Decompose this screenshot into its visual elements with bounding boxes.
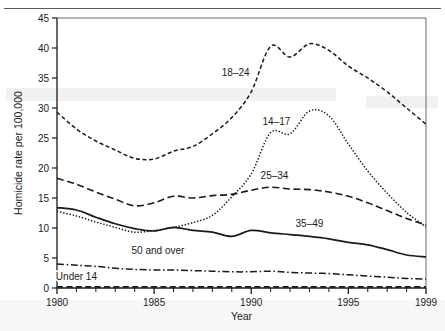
series-line-14-17 [57, 110, 426, 233]
series-label-14-17: 14–17 [263, 116, 291, 127]
y-axis-tick-label: 10 [38, 223, 50, 234]
series-line-35-49 [57, 208, 426, 257]
series-line-25-34 [57, 178, 426, 225]
y-axis-tick-label: 5 [43, 253, 49, 264]
y-axis-tick-label: 40 [38, 43, 50, 54]
x-axis-ticks-group: 19801985199019951999 [46, 288, 438, 308]
figure-chart-homicide-rate-by-age: 051015202530354045 19801985199019951999 … [0, 0, 445, 331]
data-series-group [57, 44, 426, 287]
x-axis-tick-label: 1995 [337, 297, 360, 308]
axes-frame-group [57, 18, 426, 288]
series-label-50-and-over: 50 and over [132, 245, 185, 256]
series-label-under-14: Under 14 [56, 271, 98, 282]
y-axis-tick-label: 25 [38, 133, 50, 144]
x-axis-tick-label: 1999 [415, 297, 438, 308]
series-label-35-49: 35–49 [296, 218, 324, 229]
y-axis-tick-label: 35 [38, 73, 50, 84]
y-axis-tick-label: 45 [38, 13, 50, 24]
x-axis-title: Year [231, 310, 253, 322]
y-axis-tick-label: 20 [38, 163, 50, 174]
x-axis-tick-label: 1990 [240, 297, 263, 308]
series-label-25-34: 25–34 [261, 170, 289, 181]
y-axis-tick-label: 30 [38, 103, 50, 114]
line-chart-plot: 051015202530354045 19801985199019951999 … [0, 0, 445, 331]
y-axis-title: Homicide rate per 100,000 [12, 91, 24, 215]
series-annotations-group: 18–2418–2414–1714–1725–3425–3435–4935–49… [56, 67, 324, 283]
y-axis-ticks-group: 051015202530354045 [38, 13, 57, 294]
y-axis-tick-label: 0 [43, 283, 49, 294]
y-axis-tick-label: 15 [38, 193, 50, 204]
x-axis-tick-label: 1985 [143, 297, 166, 308]
series-line-18-24 [57, 44, 426, 160]
series-line-50-and-over [57, 264, 426, 279]
x-axis-tick-label: 1980 [46, 297, 69, 308]
series-label-18-24: 18–24 [222, 67, 250, 78]
